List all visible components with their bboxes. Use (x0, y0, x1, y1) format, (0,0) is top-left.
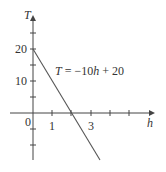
x-tick-label-3: 3 (88, 119, 94, 133)
x-tick-label-1: 1 (49, 119, 55, 133)
chart: T h 0 1 3 20 10 T = −10h + 20 (0, 0, 166, 172)
equation-annotation: T = −10h + 20 (55, 64, 124, 78)
x-axis (10, 110, 152, 116)
equation-part: + 20 (99, 64, 124, 78)
y-tick-label-10: 10 (15, 74, 27, 88)
y-axis (30, 18, 36, 160)
y-axis-label: T (24, 8, 32, 22)
x-axis-label: h (147, 116, 153, 130)
y-tick-label-20: 20 (15, 42, 27, 56)
equation-part: = −10 (62, 64, 94, 78)
origin-label: 0 (25, 115, 31, 129)
